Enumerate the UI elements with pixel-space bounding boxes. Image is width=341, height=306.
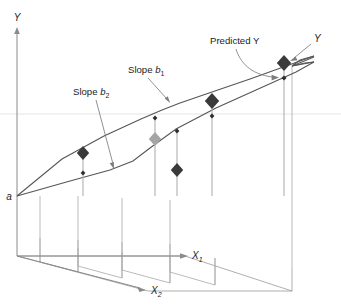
observed-marker-1 — [77, 146, 89, 160]
predicted-marker-1 — [81, 171, 86, 176]
residual-lines-group — [83, 63, 284, 196]
regression-figure: Y — [0, 0, 341, 306]
observed-y-label: Y — [314, 33, 322, 44]
observed-y-leader-line — [294, 44, 311, 58]
observed-marker-3 — [171, 163, 183, 177]
observed-y-arrowhead — [290, 57, 298, 61]
y-axis-label: Y — [14, 12, 22, 23]
panel-slice-2 — [78, 240, 122, 278]
x2-axis-group: X2 — [17, 256, 162, 298]
slope-b1-leader-line — [148, 78, 167, 99]
slope-b2-arrowhead — [110, 162, 114, 169]
slope-b2-annotation: Slope b2 — [73, 86, 114, 169]
x1-axis-group: X1 — [17, 250, 203, 263]
x2-axis-arrowhead — [137, 287, 146, 292]
slope-b2-label: Slope b2 — [73, 86, 110, 99]
observed-marker-4 — [205, 93, 219, 109]
y-axis-group: Y — [14, 12, 22, 256]
y-axis-arrowhead — [14, 27, 20, 34]
intercept-label: a — [6, 191, 12, 202]
x2-axis-line — [17, 256, 140, 288]
predicted-y-arrowhead — [272, 75, 279, 81]
regression-diagram-canvas: Y — [0, 0, 341, 306]
observed-y-annotation: Y — [290, 33, 322, 61]
vertical-panels-group — [40, 196, 215, 285]
predicted-marker-2 — [153, 116, 158, 121]
predicted-y-annotation: Predicted Y — [210, 35, 279, 80]
slope-b2-leader-line — [96, 100, 113, 164]
plane-lower-edge — [17, 62, 314, 196]
x1-axis-arrowhead — [180, 253, 188, 259]
slope-b1-label: Slope b1 — [128, 64, 165, 77]
panel-slice-3 — [122, 242, 170, 283]
observed-marker-highlight — [149, 132, 161, 146]
slope-b1-annotation: Slope b1 — [128, 64, 170, 103]
x1-axis-label: X1 — [191, 250, 203, 263]
x2-axis-label: X2 — [150, 285, 162, 298]
observed-markers-group — [77, 55, 291, 177]
predicted-y-label: Predicted Y — [210, 35, 260, 46]
